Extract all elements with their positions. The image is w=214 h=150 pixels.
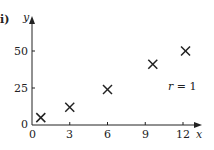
axis-ticks (32, 51, 183, 125)
xtick-label-9: 9 (142, 129, 149, 140)
x-axis-label: x (196, 129, 202, 140)
ytick-label-25: 25 (14, 83, 28, 94)
x-marker-icon (65, 103, 74, 112)
x-marker-icon (148, 60, 157, 69)
x-marker-icon (103, 85, 112, 94)
x-marker-icon (36, 113, 45, 122)
ytick-label-0: 0 (21, 119, 28, 130)
ytick-label-50: 50 (14, 46, 28, 57)
data-points (36, 47, 190, 123)
xtick-label-6: 6 (104, 129, 111, 140)
xtick-label-0: 0 (29, 129, 36, 140)
correlation-annotation: r = 1 (168, 81, 196, 92)
y-axis-label: y (23, 12, 29, 23)
x-marker-icon (181, 47, 190, 56)
xtick-label-12: 12 (176, 129, 190, 140)
y-axis-arrow-icon (29, 16, 35, 24)
xtick-label-3: 3 (66, 129, 73, 140)
